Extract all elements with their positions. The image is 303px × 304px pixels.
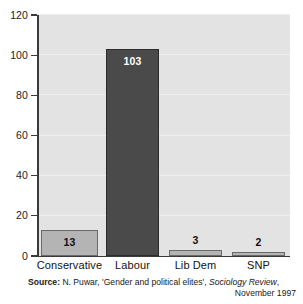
x-axis-line	[37, 256, 290, 258]
y-axis-line	[37, 15, 39, 256]
gridline	[38, 54, 290, 55]
source-line-1: Source: N. Puwar, 'Gender and political …	[28, 277, 296, 288]
bar-value-label: 103	[106, 56, 159, 67]
x-axis-label-snp: SNP	[221, 259, 296, 271]
y-axis-tick-label: 0	[0, 251, 28, 262]
bar-labour	[106, 49, 159, 256]
gridline	[38, 14, 290, 15]
bar-value-label: 2	[232, 237, 285, 248]
y-axis-tick-label: 20	[0, 210, 28, 221]
y-axis-tick	[31, 255, 37, 256]
y-axis-tick	[31, 175, 37, 176]
gridline	[38, 215, 290, 216]
gridline	[38, 175, 290, 176]
plot-area: 1310332	[38, 15, 290, 256]
y-axis-tick	[31, 55, 37, 56]
plot-background	[38, 15, 290, 256]
source-note: Source: N. Puwar, 'Gender and political …	[28, 277, 296, 299]
source-line1-tail: ,	[277, 277, 279, 287]
y-axis-tick	[31, 135, 37, 136]
bar-chart-figure: 1310332 020406080100120 ConservativeLabo…	[0, 0, 303, 304]
bar-value-label: 3	[169, 235, 222, 246]
y-axis-tick-labels: 020406080100120	[0, 0, 28, 304]
source-citation-text: N. Puwar, 'Gender and political elites',	[60, 277, 209, 287]
source-publication: Sociology Review	[209, 277, 277, 287]
source-line-2: November 1997	[28, 288, 296, 299]
source-label: Source:	[28, 277, 60, 287]
y-axis-tick-label: 100	[0, 50, 28, 61]
y-axis-tick	[31, 95, 37, 96]
y-axis-tick-label: 60	[0, 130, 28, 141]
y-axis-tick	[31, 215, 37, 216]
y-axis-tick-label: 120	[0, 10, 28, 21]
bar-value-label: 13	[41, 237, 98, 248]
y-axis-tick-label: 80	[0, 90, 28, 101]
y-axis-tick	[31, 14, 37, 15]
gridline	[38, 135, 290, 136]
gridline	[38, 94, 290, 95]
y-axis-tick-label: 40	[0, 170, 28, 181]
